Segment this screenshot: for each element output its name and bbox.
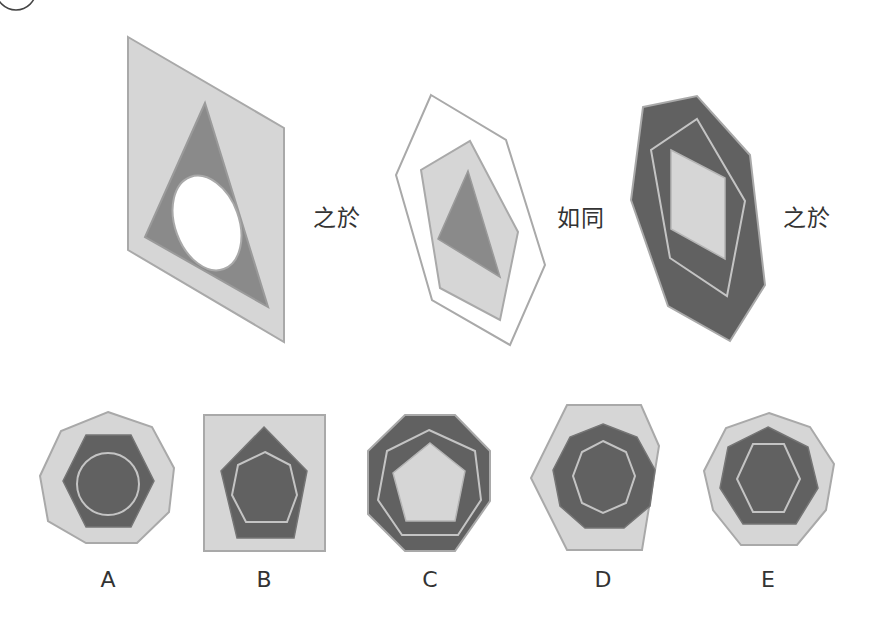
option-c-figure[interactable] bbox=[368, 415, 490, 551]
question-number-circle bbox=[0, 0, 36, 10]
figure-2 bbox=[396, 95, 545, 345]
relation-text-1: 之於 bbox=[313, 199, 361, 233]
relation-text-2: 如同 bbox=[557, 199, 605, 233]
option-b-figure[interactable] bbox=[204, 415, 325, 551]
puzzle-canvas bbox=[0, 0, 881, 630]
option-label-e[interactable]: E bbox=[748, 567, 788, 592]
option-label-b[interactable]: B bbox=[244, 567, 284, 592]
option-label-a[interactable]: A bbox=[88, 567, 128, 592]
option-d-figure[interactable] bbox=[531, 405, 659, 550]
option-e-figure[interactable] bbox=[704, 413, 834, 545]
figure-1 bbox=[128, 37, 284, 342]
relation-text-3: 之於 bbox=[783, 199, 831, 233]
option-label-c[interactable]: C bbox=[410, 567, 450, 592]
option-a-figure[interactable] bbox=[40, 412, 174, 543]
figure-3 bbox=[631, 96, 765, 341]
option-label-d[interactable]: D bbox=[583, 567, 623, 592]
